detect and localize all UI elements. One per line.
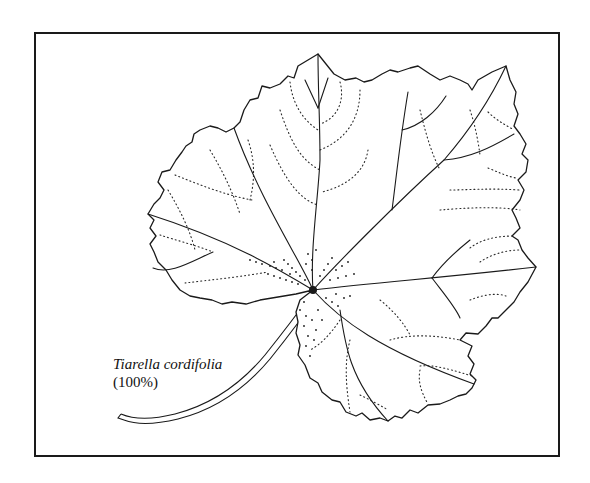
scale-label: (100%) [113, 373, 222, 391]
species-name: Tiarella cordifolia [113, 355, 222, 373]
leaf-illustration [0, 0, 590, 483]
figure-caption: Tiarella cordifolia (100%) [113, 355, 222, 391]
